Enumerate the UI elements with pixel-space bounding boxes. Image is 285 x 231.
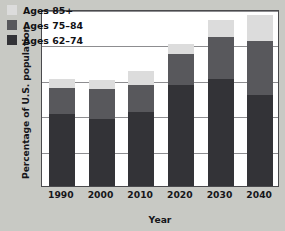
legend-label: Ages 85+ <box>23 5 73 16</box>
legend-item[interactable]: Ages 62–74 <box>7 34 83 46</box>
legend-item[interactable]: Ages 75–84 <box>7 19 83 31</box>
bar-column[interactable] <box>128 9 154 186</box>
bar-segment[interactable] <box>208 20 234 37</box>
bar-segment[interactable] <box>208 79 234 186</box>
legend-swatch-icon <box>7 20 17 30</box>
legend-label: Ages 62–74 <box>23 35 83 46</box>
bar-column[interactable] <box>208 9 234 186</box>
bar-segment[interactable] <box>247 15 273 40</box>
legend-swatch-icon <box>7 35 17 45</box>
bar-segment[interactable] <box>89 119 115 186</box>
bar-segment[interactable] <box>247 41 273 95</box>
bar-segment[interactable] <box>89 80 115 89</box>
x-axis-tick-labels: 199020002010202020302040 <box>41 189 279 205</box>
bar-segment[interactable] <box>208 37 234 79</box>
legend-label: Ages 75–84 <box>23 20 83 31</box>
bar-segment[interactable] <box>247 95 273 186</box>
bar-segment[interactable] <box>168 54 194 85</box>
bar-segment[interactable] <box>128 112 154 186</box>
x-axis-title: Year <box>41 214 279 225</box>
bar-segment[interactable] <box>168 44 194 53</box>
bar-column[interactable] <box>89 9 115 186</box>
bar-segment[interactable] <box>49 79 75 88</box>
bar-segment[interactable] <box>49 114 75 186</box>
bar-segment[interactable] <box>128 85 154 112</box>
x-tick-label: 2040 <box>236 189 282 200</box>
legend-swatch-icon <box>7 5 17 15</box>
bar-segment[interactable] <box>49 88 75 113</box>
bar-segment[interactable] <box>89 89 115 119</box>
bar-column[interactable] <box>168 9 194 186</box>
legend-item[interactable]: Ages 85+ <box>7 4 83 16</box>
bar-column[interactable] <box>247 9 273 186</box>
bar-segment[interactable] <box>128 71 154 85</box>
chart-figure: Percentage of U.S. population 0510152025… <box>0 0 285 231</box>
chart-legend: Ages 85+Ages 75–84Ages 62–74 <box>7 4 83 46</box>
bar-segment[interactable] <box>168 85 194 186</box>
